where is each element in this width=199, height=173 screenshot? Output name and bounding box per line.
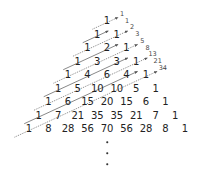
triangle-entry: 1	[114, 30, 120, 40]
triangle-entry: 28	[62, 124, 75, 134]
ellipsis-dot	[106, 152, 108, 154]
triangle-entry: 1	[104, 16, 110, 26]
fibonacci-label: 1	[120, 11, 124, 18]
triangle-entry: 1	[153, 84, 159, 94]
triangle-entry: 1	[172, 111, 178, 121]
triangle-entry: 56	[81, 124, 94, 134]
triangle-entry: 15	[81, 97, 94, 107]
triangle-entry: 7	[153, 111, 159, 121]
triangle-entry: 70	[101, 124, 114, 134]
triangle-entry: 1	[182, 124, 188, 134]
triangle-entry: 35	[91, 111, 104, 121]
fibonacci-label: 5	[140, 38, 144, 45]
ellipsis-dot	[106, 163, 108, 165]
triangle-entry: 5	[75, 84, 81, 94]
triangle-entry: 1	[55, 84, 61, 94]
triangle-entry: 3	[114, 57, 120, 67]
triangle-entry: 2	[104, 43, 110, 53]
triangle-entry: 28	[140, 124, 153, 134]
triangle-entry: 1	[45, 97, 51, 107]
triangle-entry: 21	[130, 111, 143, 121]
triangle-entry: 8	[162, 124, 168, 134]
fibonacci-label: 2	[130, 24, 134, 31]
triangle-entry: 3	[94, 57, 100, 67]
triangle-entry: 4	[123, 70, 129, 80]
triangle-entry: 56	[120, 124, 133, 134]
triangle-entry: 1	[94, 30, 100, 40]
triangle-entry: 15	[120, 97, 133, 107]
triangle-entry: 1	[65, 70, 71, 80]
triangle-entry: 1	[123, 43, 129, 53]
triangle-entry: 5	[133, 84, 139, 94]
triangle-entry: 1	[143, 70, 149, 80]
triangle-entry: 8	[45, 124, 51, 134]
ellipsis-dot	[106, 141, 108, 143]
triangle-entry: 1	[84, 43, 90, 53]
fibonacci-label: 3	[135, 31, 139, 38]
triangle-entry: 10	[110, 84, 123, 94]
triangle-entry: 1	[133, 57, 139, 67]
pascal-triangle-diagram: 1111211331146411510105116152015611721353…	[0, 0, 199, 173]
triangle-entry: 4	[84, 70, 90, 80]
triangle-entry: 21	[71, 111, 84, 121]
triangle-entry: 1	[26, 124, 32, 134]
triangle-entry: 35	[110, 111, 123, 121]
triangle-entry: 6	[104, 70, 110, 80]
triangle-entry: 7	[55, 111, 61, 121]
triangle-entry: 1	[162, 97, 168, 107]
triangle-entry: 6	[65, 97, 71, 107]
triangle-entry: 6	[143, 97, 149, 107]
triangle-entry: 20	[101, 97, 114, 107]
triangle-entry: 1	[36, 111, 42, 121]
triangle-entry: 10	[91, 84, 104, 94]
fibonacci-label: 34	[159, 64, 167, 71]
fibonacci-label: 1	[125, 17, 129, 24]
triangle-entry: 1	[75, 57, 81, 67]
